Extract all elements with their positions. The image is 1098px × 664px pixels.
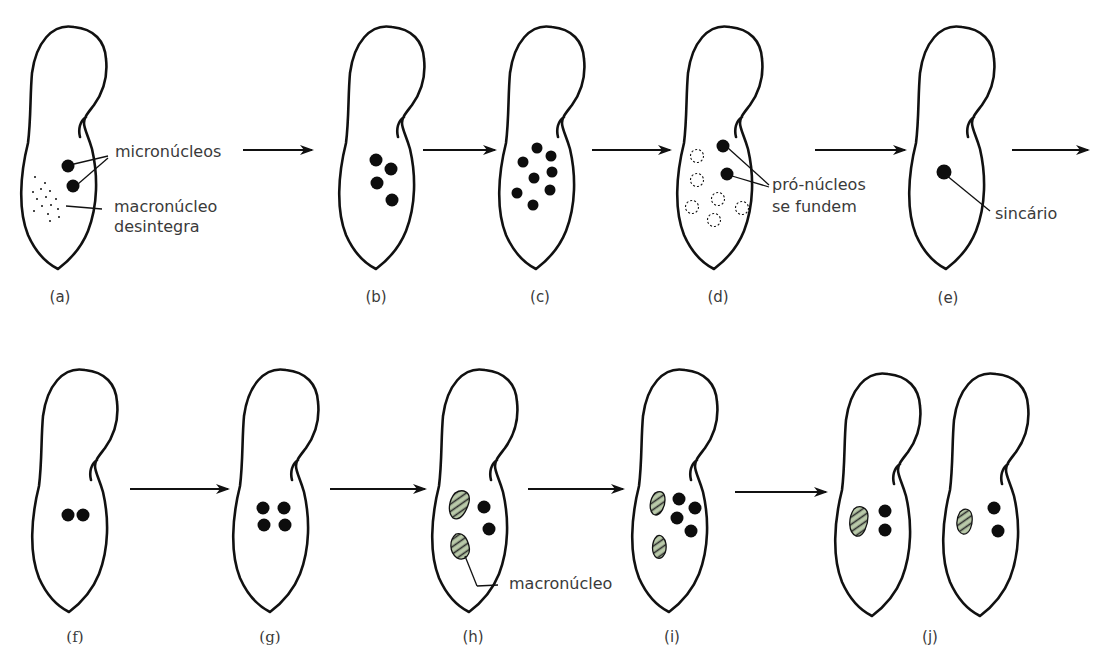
cell-e [909,26,994,269]
label-macronucleo-desintegra-2: desintegra [114,218,200,236]
micronucleus [67,180,80,193]
cell-j-left [835,373,920,616]
label-micronucleos: micronúcleos [115,143,221,161]
macronucleus [653,535,667,558]
cell-d [677,26,769,269]
macronucleus [650,492,665,515]
caption-g: (g) [259,628,280,646]
cell-i [632,369,717,612]
caption-j: (j) [922,628,938,646]
caption-f: (f) [66,628,83,646]
macronucleus [957,509,972,534]
caption-b: (b) [365,288,386,306]
cell-b [339,26,424,269]
caption-h: (h) [462,628,483,646]
conjugation-diagram [0,0,1098,664]
caption-a: (a) [50,288,71,306]
cell-g [233,369,318,612]
macronucleus [451,534,470,559]
caption-i: (i) [664,628,680,646]
cell-a [21,26,108,269]
macronucleus [850,507,868,536]
caption-e: (e) [938,289,959,307]
cell-j-right [943,373,1028,616]
caption-d: (d) [707,288,728,306]
disintegrating-macronucleus [32,176,60,222]
label-macronucleo-desintegra-1: macronúcleo [114,198,217,216]
macronucleus [449,491,469,519]
label-sincario: sincário [995,205,1057,223]
micronucleus [62,160,75,173]
cell-f [32,369,117,612]
label-pronucleos-1: pró-núcleos [772,176,866,194]
label-macronucleo: macronúcleo [509,575,612,593]
label-pronucleos-2: se fundem [772,198,857,216]
caption-c: (c) [530,288,550,306]
cell-h [432,369,517,612]
cell-c [499,26,584,269]
